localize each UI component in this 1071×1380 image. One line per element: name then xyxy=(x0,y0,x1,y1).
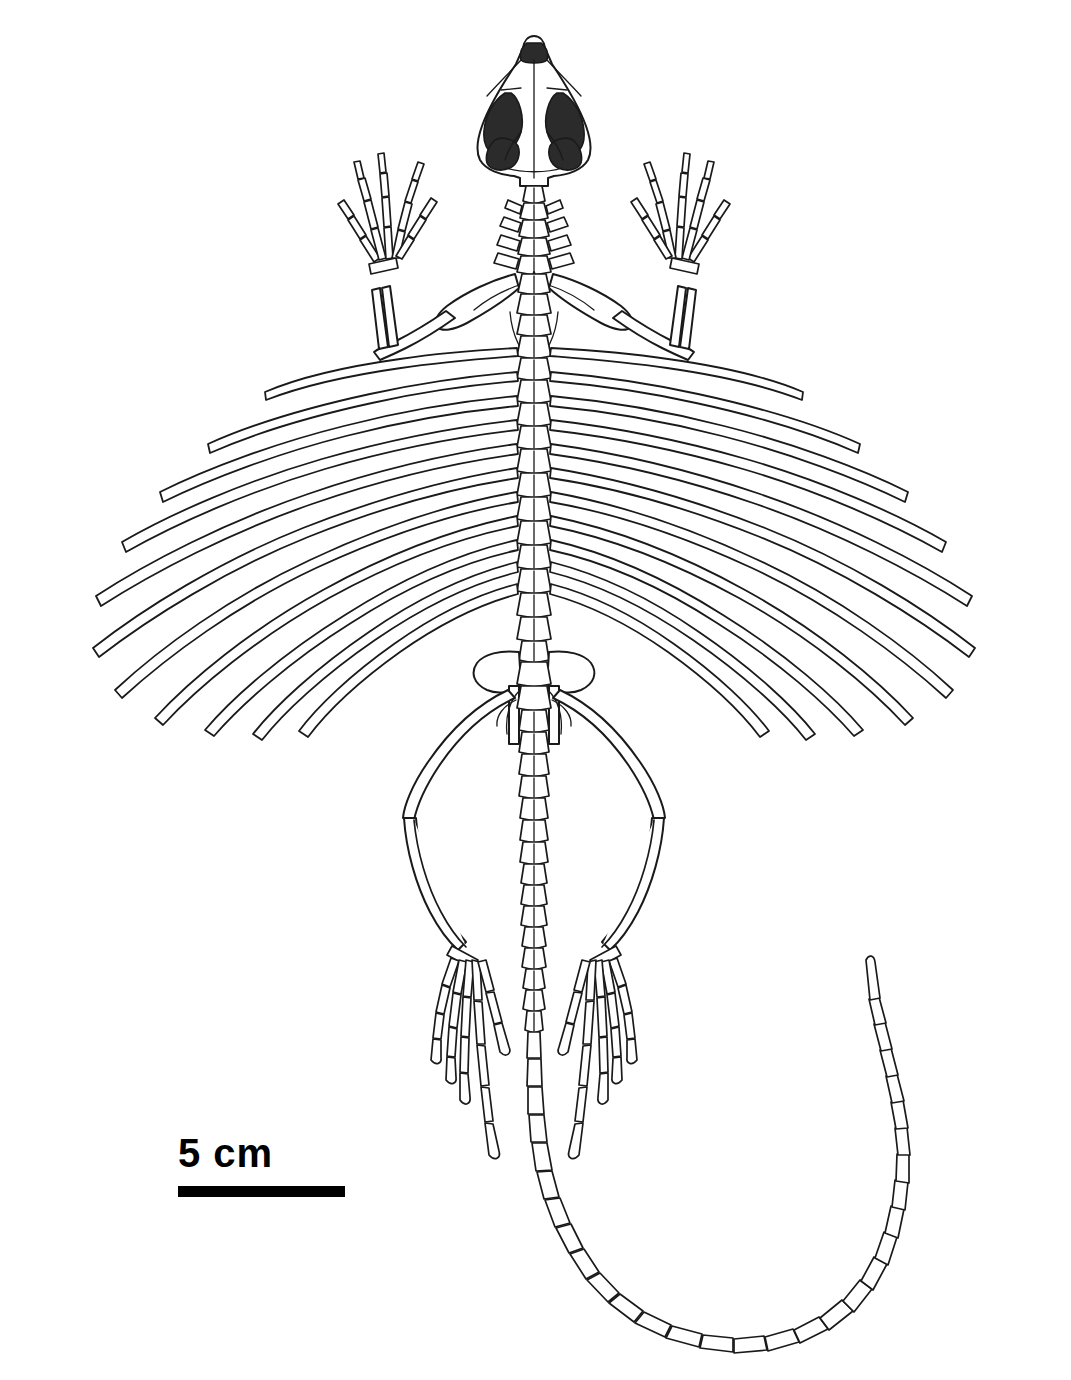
caudal-vertebra xyxy=(537,1171,559,1199)
caudal-vertebra-tip xyxy=(866,956,880,1000)
dorsal-vertebra xyxy=(517,336,551,359)
caudal-vertebra xyxy=(519,732,549,755)
cervical-vertebrae-group xyxy=(494,186,574,275)
caudal-vertebra xyxy=(891,1100,908,1129)
dorsal-vertebra xyxy=(517,380,551,404)
dorsal-vertebra xyxy=(517,294,551,316)
caudal-vertebra xyxy=(700,1335,733,1352)
dorsal-vertebra xyxy=(517,617,551,642)
caudal-vertebra xyxy=(519,754,549,777)
caudal-vertebra xyxy=(520,820,548,843)
cervical-vertebra xyxy=(523,186,545,204)
caudal-vertebra xyxy=(520,842,548,865)
caudal-vertebra xyxy=(666,1326,702,1347)
dorsal-vertebra xyxy=(519,641,549,663)
caudal-vertebra xyxy=(527,1032,541,1058)
caudal-vertebra xyxy=(532,1143,552,1171)
caudal-vertebra xyxy=(734,1336,767,1353)
caudal-vertebra xyxy=(519,710,549,733)
caudal-vertebra xyxy=(556,1224,583,1253)
scale-bar-label: 5 cm xyxy=(178,1133,273,1173)
dorsal-vertebra xyxy=(517,315,551,337)
dorsal-vertebra xyxy=(517,358,551,381)
caudal-vertebra xyxy=(522,948,546,970)
right-femur xyxy=(553,690,665,820)
cervical-vertebra xyxy=(497,235,571,257)
cervical-vertebra xyxy=(505,200,563,221)
right-ribs-group xyxy=(550,348,975,740)
caudal-vertebra xyxy=(892,1180,908,1210)
left-ribs-group xyxy=(93,348,518,740)
caudal-vertebra xyxy=(635,1312,671,1337)
skeleton-illustration xyxy=(0,0,1071,1380)
right-supratemporal-fenestra xyxy=(549,138,582,170)
right-hindlimb-group xyxy=(553,690,665,1159)
caudal-vertebra xyxy=(519,776,549,799)
caudal-vertebra xyxy=(522,927,546,949)
caudal-vertebrae-group xyxy=(519,710,910,1353)
caudal-vertebra xyxy=(869,997,886,1025)
caudal-vertebra xyxy=(529,1115,547,1142)
dorsal-vertebra xyxy=(517,545,551,570)
caudal-vertebra xyxy=(523,969,545,991)
dorsal-vertebra xyxy=(517,497,551,522)
figure-root: 5 cm xyxy=(0,0,1071,1380)
dorsal-vertebrae-group xyxy=(517,274,551,663)
dorsal-vertebra xyxy=(517,593,551,618)
right-forelimb-group xyxy=(613,153,730,360)
caudal-vertebra xyxy=(545,1198,570,1227)
dorsal-vertebra xyxy=(517,521,551,546)
caudal-vertebra xyxy=(525,1011,543,1033)
sacral-vertebra xyxy=(517,686,551,711)
caudal-vertebra xyxy=(523,990,545,1012)
caudal-vertebra xyxy=(609,1294,643,1322)
caudal-vertebra xyxy=(521,906,547,928)
left-hindlimb-group xyxy=(403,690,515,1159)
right-rib xyxy=(550,372,860,453)
caudal-vertebra xyxy=(521,885,547,907)
caudal-vertebra xyxy=(570,1249,599,1279)
caudal-vertebra xyxy=(886,1074,904,1103)
left-supratemporal-fenestra xyxy=(486,138,519,170)
caudal-vertebra xyxy=(527,1059,542,1086)
caudal-vertebra xyxy=(528,1087,544,1114)
scale-bar-rule xyxy=(178,1186,345,1197)
caudal-vertebra xyxy=(885,1206,904,1238)
caudal-vertebra xyxy=(521,864,547,886)
caudal-vertebra xyxy=(874,1022,892,1051)
skull-group xyxy=(478,36,591,186)
left-forelimb-group xyxy=(338,153,455,360)
caudal-vertebra xyxy=(765,1329,799,1351)
caudal-vertebra xyxy=(895,1127,910,1155)
dorsal-vertebra xyxy=(517,426,551,450)
dorsal-vertebra xyxy=(517,403,551,427)
caudal-vertebra xyxy=(880,1048,898,1077)
caudal-vertebra xyxy=(896,1154,909,1183)
caudal-vertebra xyxy=(520,798,548,821)
dorsal-vertebra xyxy=(517,569,551,594)
sacral-vertebra xyxy=(517,662,551,687)
dorsal-vertebra xyxy=(517,473,551,498)
left-femur xyxy=(403,690,515,820)
dorsal-vertebra xyxy=(517,449,551,474)
dorsal-vertebra xyxy=(518,274,550,295)
cervical-vertebra xyxy=(500,217,568,239)
left-rib xyxy=(208,372,518,453)
